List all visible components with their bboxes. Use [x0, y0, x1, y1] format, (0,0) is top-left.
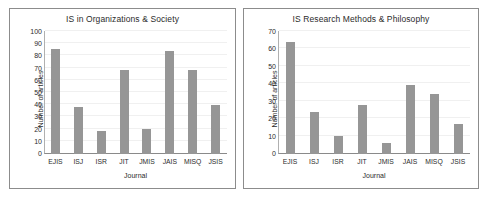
bar-slot: ISJ [67, 31, 90, 154]
x-axis-title: Journal [278, 172, 470, 179]
x-tick-label: ISJ [309, 158, 319, 165]
bar-slot: JIT [113, 31, 136, 154]
x-tick-label: JIT [119, 158, 128, 165]
x-tick-label: JIT [357, 158, 366, 165]
x-tick-label: EJIS [283, 158, 297, 165]
bar [358, 105, 367, 154]
bar [406, 85, 415, 154]
bar-slot: MISQ [422, 31, 446, 154]
x-tick-label: ISR [332, 158, 343, 165]
y-tick-label: 60 [34, 76, 42, 83]
x-tick-label: JSIS [208, 158, 222, 165]
bar [334, 136, 343, 154]
y-tick-label: 60 [268, 45, 276, 52]
bar-slot: JAIS [158, 31, 181, 154]
figure: IS in Organizations & Society Number of … [0, 0, 492, 201]
plot-area-left: 0102030405060708090100 EJISISJISRJITJMIS… [44, 31, 227, 154]
bar-slot: EJIS [44, 31, 67, 154]
y-tick-label: 20 [34, 125, 42, 132]
bar-slot: JMIS [136, 31, 159, 154]
y-tick-label: 70 [34, 64, 42, 71]
bar [97, 131, 106, 154]
x-tick-label: ISR [96, 158, 107, 165]
y-tick-label: 40 [34, 101, 42, 108]
y-tick-label: 10 [268, 132, 276, 139]
chart-title: IS Research Methods & Philosophy [244, 14, 478, 24]
y-tick-label: 50 [268, 62, 276, 69]
bar-slot: JAIS [398, 31, 422, 154]
x-tick-label: JAIS [403, 158, 417, 165]
bar [74, 107, 83, 154]
x-tick-label: MISQ [425, 158, 442, 165]
x-tick-label: ISJ [73, 158, 83, 165]
y-tick-label: 50 [34, 89, 42, 96]
x-tick-label: JMIS [378, 158, 393, 165]
y-tick-label: 70 [268, 28, 276, 35]
bar-series: EJISISJISRJITJMISJAISMISQJSIS [278, 31, 470, 154]
y-tick-label: 30 [268, 97, 276, 104]
chart-title: IS in Organizations & Society [10, 14, 235, 24]
x-tick-label: JAIS [163, 158, 177, 165]
bar [286, 42, 295, 154]
bar [51, 49, 60, 154]
bar [454, 124, 463, 154]
bar [120, 70, 129, 154]
x-tick-label: MISQ [184, 158, 201, 165]
x-tick-label: JMIS [139, 158, 154, 165]
bar [430, 94, 439, 154]
y-tick-label: 80 [34, 52, 42, 59]
chart-panel-left: IS in Organizations & Society Number of … [9, 8, 236, 189]
bar [211, 105, 220, 154]
bar-slot: JIT [350, 31, 374, 154]
bar [188, 70, 197, 154]
bar-slot: MISQ [181, 31, 204, 154]
bar-slot: ISR [90, 31, 113, 154]
bar-slot: JMIS [374, 31, 398, 154]
x-tick-label: EJIS [48, 158, 62, 165]
bar [165, 51, 174, 154]
bar-slot: JSIS [204, 31, 227, 154]
y-tick-label: 0 [38, 150, 42, 157]
bar-slot: ISR [326, 31, 350, 154]
y-tick-label: 40 [268, 80, 276, 87]
bar [142, 129, 151, 154]
bar-slot: JSIS [446, 31, 470, 154]
y-tick-label: 90 [34, 40, 42, 47]
y-tick-label: 30 [34, 113, 42, 120]
bar [310, 112, 319, 154]
chart-panel-right: IS Research Methods & Philosophy Number … [243, 8, 479, 189]
x-tick-label: JSIS [451, 158, 465, 165]
bar-slot: ISJ [302, 31, 326, 154]
y-tick-label: 100 [30, 28, 42, 35]
bar [382, 143, 391, 154]
plot-area-right: 010203040506070 EJISISJISRJITJMISJAISMIS… [278, 31, 470, 154]
y-tick-label: 10 [34, 137, 42, 144]
bar-series: EJISISJISRJITJMISJAISMISQJSIS [44, 31, 227, 154]
y-tick-label: 0 [272, 150, 276, 157]
y-tick-label: 20 [268, 115, 276, 122]
bar-slot: EJIS [278, 31, 302, 154]
x-axis-title: Journal [44, 172, 227, 179]
